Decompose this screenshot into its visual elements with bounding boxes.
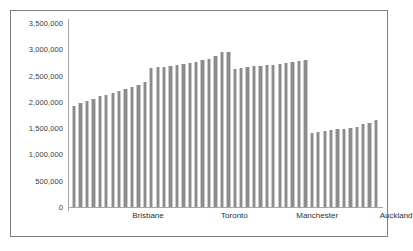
bar — [98, 96, 102, 207]
bar — [329, 130, 333, 207]
bar — [303, 60, 307, 207]
bar — [297, 61, 301, 207]
bar — [361, 124, 365, 207]
y-axis-line — [68, 19, 69, 211]
bar — [284, 63, 288, 207]
y-axis-tick-label: 500,000 — [35, 176, 63, 185]
bar — [290, 62, 294, 207]
bar — [149, 68, 153, 207]
y-axis-tick-label: 1,000,000 — [29, 150, 63, 159]
x-axis-line — [68, 207, 383, 208]
bar — [162, 67, 166, 207]
y-axis-tick-label: 1,500,000 — [29, 124, 63, 133]
x-axis-category-label: Auckland — [380, 211, 413, 220]
bar — [335, 129, 339, 207]
bar — [278, 64, 282, 207]
bar — [258, 66, 262, 207]
bar — [310, 133, 314, 207]
bar — [233, 69, 237, 207]
x-axis-category-label: Manchester — [296, 211, 338, 220]
bar — [213, 56, 217, 207]
bar — [355, 127, 359, 207]
bar — [265, 65, 269, 207]
bar — [72, 106, 76, 207]
bar — [226, 52, 230, 207]
bar — [143, 82, 147, 207]
bar — [323, 131, 327, 207]
bar — [316, 132, 320, 207]
chart-container: 0500,0001,000,0001,500,0002,000,0002,500… — [10, 10, 388, 237]
bar — [188, 63, 192, 207]
y-axis-tick-label: 3,000,000 — [29, 45, 63, 54]
bar — [130, 87, 134, 207]
bar — [181, 64, 185, 207]
bar — [91, 99, 95, 207]
bar — [168, 66, 172, 207]
bar — [78, 103, 82, 207]
y-axis-tick-label: 3,500,000 — [29, 19, 63, 28]
bar — [123, 89, 127, 207]
bar — [348, 128, 352, 207]
x-axis-category-label: Toronto — [221, 211, 248, 220]
bar — [342, 129, 346, 207]
bar-series — [71, 11, 379, 207]
bar — [200, 60, 204, 207]
x-axis-category-label: Brisbane — [132, 211, 164, 220]
bar — [156, 67, 160, 207]
bar — [245, 67, 249, 207]
bar — [252, 66, 256, 207]
y-axis-tick-label: 2,500,000 — [29, 71, 63, 80]
y-axis-tick-label: 2,000,000 — [29, 97, 63, 106]
bar — [136, 85, 140, 207]
bar — [271, 65, 275, 207]
bar — [111, 93, 115, 207]
bar — [239, 68, 243, 207]
bar — [374, 120, 378, 207]
bar — [175, 65, 179, 207]
y-axis-tick-label: 0 — [59, 203, 63, 212]
bar — [117, 91, 121, 207]
bar — [220, 52, 224, 207]
bar — [194, 62, 198, 207]
bar — [104, 95, 108, 208]
bar — [367, 123, 371, 207]
bar — [207, 59, 211, 207]
bar — [85, 101, 89, 207]
